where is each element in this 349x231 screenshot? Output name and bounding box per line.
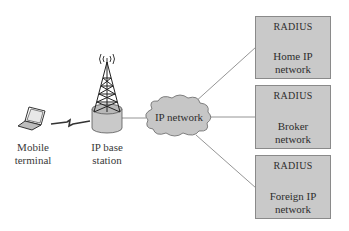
mobile-terminal-label-1: Mobile <box>8 141 58 153</box>
mobile-terminal-label-2: terminal <box>8 154 58 166</box>
radius-label-home: RADIUS <box>256 21 330 33</box>
edge-cloud-to-home <box>194 47 256 103</box>
broker-network-label-2: network <box>256 133 330 145</box>
broker-network-box: RADIUS Broker network <box>255 85 331 149</box>
home-network-label-2: network <box>256 63 330 75</box>
broker-network-label-1: Broker <box>256 120 330 132</box>
home-ip-network-box: RADIUS Home IP network <box>255 16 331 79</box>
antenna-tower-icon <box>92 54 122 133</box>
radio-waves-icon <box>100 54 115 65</box>
laptop-icon <box>18 107 45 130</box>
ip-network-label: IP network <box>151 111 207 123</box>
foreign-network-label-1: Foreign IP <box>256 190 330 202</box>
base-station-label-2: station <box>84 154 130 166</box>
foreign-network-label-2: network <box>256 203 330 215</box>
foreign-ip-network-box: RADIUS Foreign IP network <box>255 155 331 219</box>
radius-label-broker: RADIUS <box>256 90 330 102</box>
edge-cloud-to-foreign <box>196 135 256 188</box>
radius-label-foreign: RADIUS <box>256 160 330 172</box>
home-network-label-1: Home IP <box>256 50 330 62</box>
wireless-link-icon <box>51 120 90 126</box>
base-station-label-1: IP base <box>84 141 130 153</box>
